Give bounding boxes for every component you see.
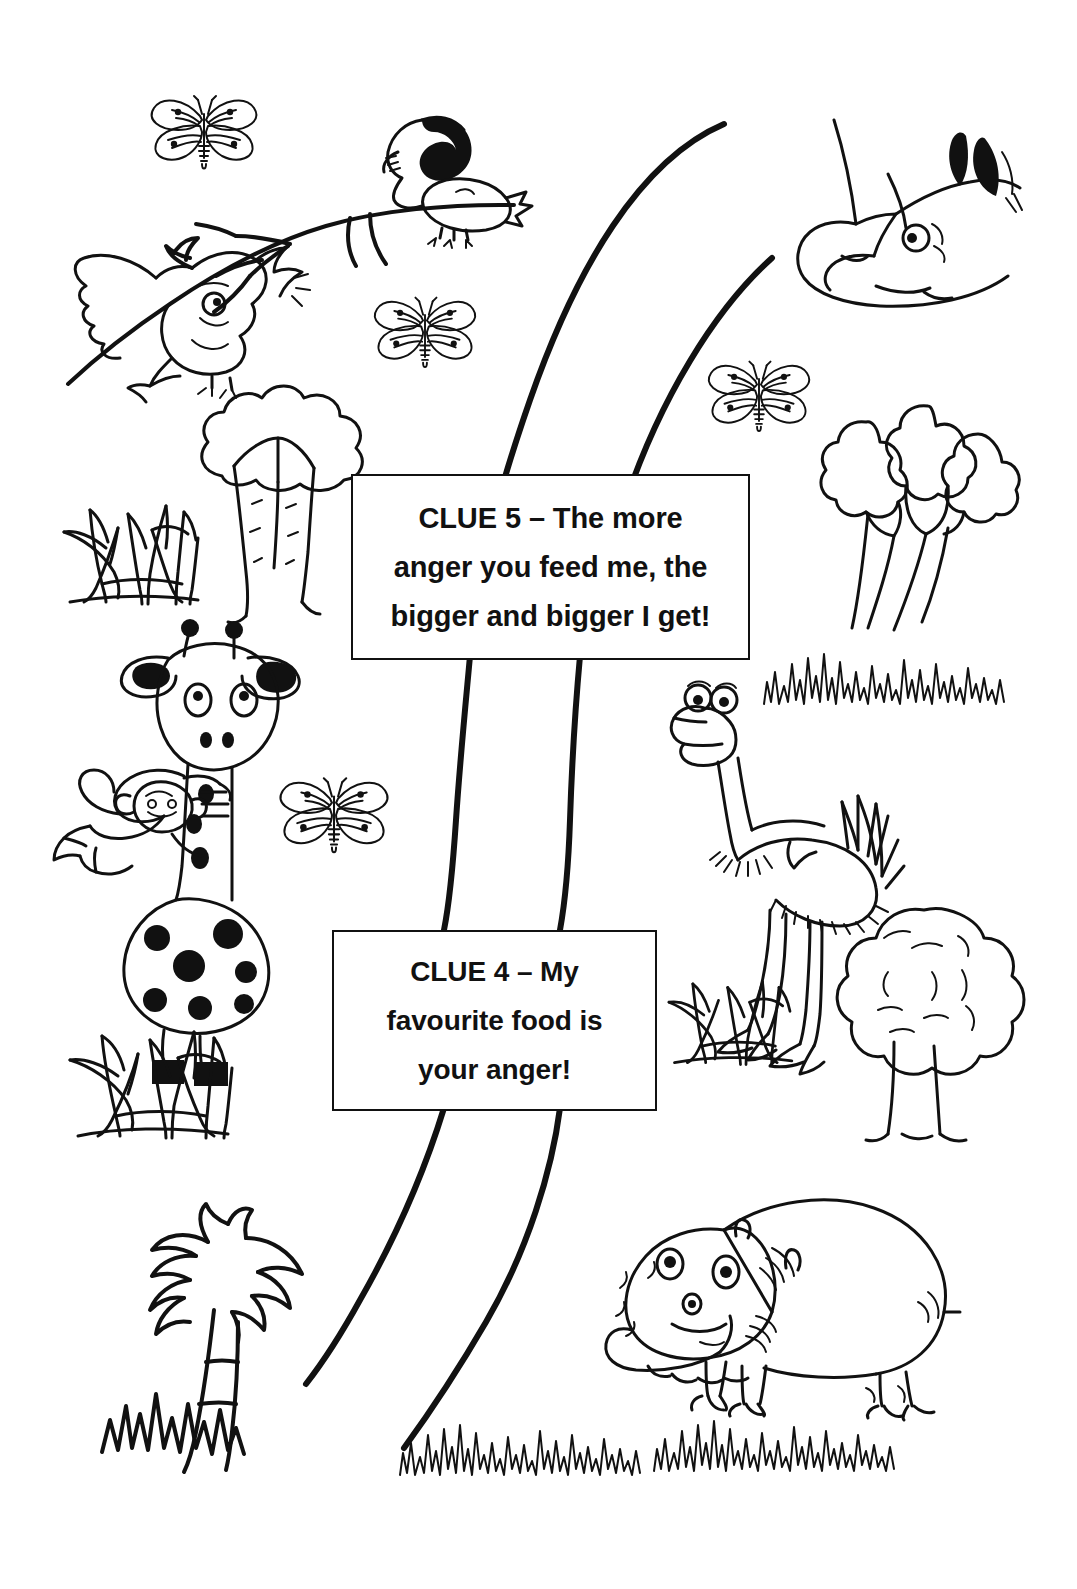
grass-clump-right-mid: [660, 960, 810, 1070]
butterfly-upper-right-icon: [700, 352, 818, 444]
hippo: [560, 1160, 960, 1410]
clue-4-line-3: your anger!: [418, 1045, 571, 1094]
butterfly-upper-mid-icon: [366, 288, 484, 380]
palm-tree: [86, 1182, 326, 1462]
clue-5-line-3: bigger and bigger I get!: [391, 592, 711, 641]
worksheet-page: CLUE 5 – The more anger you feed me, the…: [0, 0, 1077, 1589]
clue-5-line-2: anger you feed me, the: [394, 543, 708, 592]
clue-4-box: CLUE 4 – My favourite food is your anger…: [332, 930, 657, 1111]
grass-tuft-bottom-left: [394, 1398, 644, 1480]
clue-5-box: CLUE 5 – The more anger you feed me, the…: [351, 474, 750, 660]
tree-upper-right: [806, 392, 1016, 642]
rhino: [770, 112, 1060, 332]
grass-clump-left-upper: [56, 478, 216, 610]
grass-clump-left-lower: [62, 1008, 252, 1138]
clue-4-line-1: CLUE 4 – My: [410, 947, 579, 996]
clue-4-line-2: favourite food is: [386, 996, 602, 1045]
grass-tuft-bottom-right: [648, 1394, 898, 1476]
tree-lower-right: [828, 896, 1028, 1146]
clue-5-line-1: CLUE 5 – The more: [418, 494, 682, 543]
butterfly-mid-left-icon: [272, 768, 396, 866]
